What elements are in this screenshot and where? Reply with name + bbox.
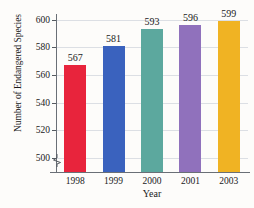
bar-value-label: 567 (68, 52, 83, 63)
bar-series: 56719985811999593200059620015992003 (56, 14, 248, 172)
y-tick-label: 500 (36, 153, 50, 163)
bar[interactable] (179, 25, 201, 172)
bar[interactable] (141, 29, 163, 172)
x-tick-label: 2003 (219, 176, 238, 186)
y-axis-title: Number of Endangered Species (13, 0, 23, 153)
y-tick-label: 540 (36, 98, 50, 108)
y-tick-label: 520 (36, 125, 50, 135)
bar[interactable] (218, 21, 240, 172)
y-tick-label: 580 (36, 42, 50, 52)
x-axis-title: Year (56, 188, 248, 199)
bar-group[interactable]: 5811999 (94, 14, 132, 172)
bar-group[interactable]: 5932000 (133, 14, 171, 172)
y-tick-label: 600 (36, 15, 50, 25)
x-axis-line (50, 172, 250, 173)
bar-value-label: 596 (183, 12, 198, 23)
x-tick-label: 2001 (181, 176, 200, 186)
bar[interactable] (103, 46, 125, 172)
bar[interactable] (64, 65, 86, 172)
x-tick-label: 1998 (66, 176, 85, 186)
bar-value-label: 581 (106, 33, 121, 44)
bar-group[interactable]: 5992003 (210, 14, 248, 172)
bar-group[interactable]: 5962001 (171, 14, 209, 172)
bar-value-label: 593 (144, 16, 159, 27)
y-tick-label: 560 (36, 70, 50, 80)
x-tick-label: 1999 (104, 176, 123, 186)
bar-chart-figure: Number of Endangered Species 50052054056… (0, 0, 254, 208)
bar-value-label: 599 (221, 8, 236, 19)
plot-area: 500520540560580600 567199858119995932000… (56, 14, 248, 172)
bar-group[interactable]: 5671998 (56, 14, 94, 172)
x-tick-label: 2000 (142, 176, 161, 186)
